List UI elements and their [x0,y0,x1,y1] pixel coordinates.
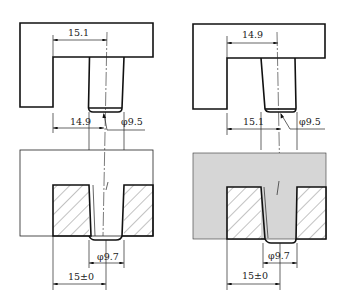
hole-diameter-label: φ9.7 [97,251,119,262]
pin-centerline [103,32,107,236]
left-view: 15.1 14.9 φ9.5 φ9.7 [20,23,153,290]
position-dimension-label: 15±0 [68,271,94,282]
position-dimension-label: 15±0 [242,270,268,281]
left-bottom-block: φ9.7 15±0 [20,150,153,290]
hatched-section-right [124,185,153,236]
lower-dimension-label: 15.1 [243,116,264,127]
hatched-section-left [227,187,261,239]
hole-bottom [89,236,122,240]
hole-center-mark [106,182,108,190]
right-bottom-block: φ9.7 15±0 [193,153,326,290]
hole-diameter-label: φ9.7 [268,250,290,261]
hatched-section-right [297,187,326,239]
pin-diameter-label: φ9.5 [121,116,143,127]
upper-dimension-label: 15.1 [68,27,89,38]
technical-drawing: 15.1 14.9 φ9.5 φ9.7 [0,0,346,307]
hole-inner-line [93,185,95,236]
right-view: 14.9 15.1 φ9.5 φ9.7 [193,24,326,290]
hole-bottom [265,239,296,243]
pin-diameter-label: φ9.5 [299,116,321,127]
hatched-section-left [53,185,89,236]
lower-dimension-label: 14.9 [70,116,91,127]
upper-dimension-label: 14.9 [242,29,263,40]
